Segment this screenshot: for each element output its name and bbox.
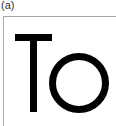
letter-t-glyph: [15, 34, 52, 112]
glyph-display: [0, 0, 116, 126]
letter-o-glyph: [53, 57, 106, 110]
